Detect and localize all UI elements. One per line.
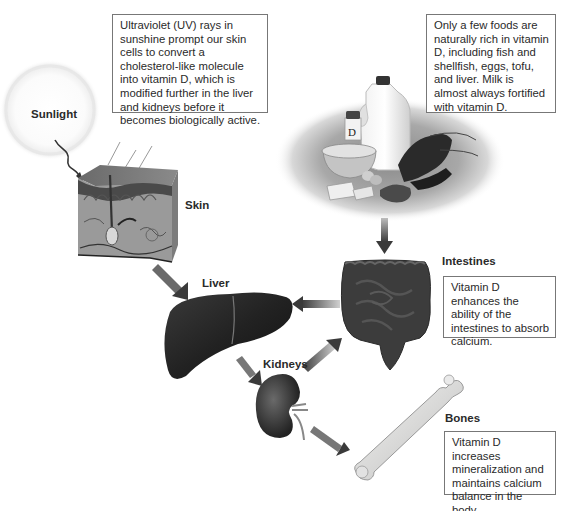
arrow-intestines-to-liver: [292, 296, 340, 312]
bones-callout: Vitamin D increases mineralization and m…: [444, 431, 556, 495]
supplement-label: D: [348, 126, 356, 138]
bones-label: Bones: [445, 412, 480, 424]
arrow-skin-to-liver: [152, 264, 188, 300]
skin-illustration: [78, 142, 178, 262]
arrow-kidneys-to-bones: [310, 426, 350, 456]
liver-label: Liver: [202, 277, 230, 289]
arrow-kidneys-to-intestines: [302, 338, 342, 372]
kidney-illustration: [256, 374, 308, 440]
intestines-illustration: [341, 260, 430, 370]
skin-uv-callout: Ultraviolet (UV) rays in sunshine prompt…: [112, 14, 268, 113]
skin-label: Skin: [185, 199, 209, 211]
intestines-label: Intestines: [442, 255, 496, 267]
kidneys-label: Kidneys: [263, 358, 308, 370]
arrow-liver-to-kidneys: [236, 356, 262, 386]
foods-callout: Only a few foods are naturally rich in v…: [426, 14, 556, 113]
sunlight-label: Sunlight: [31, 108, 77, 120]
intestines-callout: Vitamin D enhances the ability of the in…: [443, 276, 556, 338]
arrow-foods-to-intestines: [376, 218, 393, 254]
